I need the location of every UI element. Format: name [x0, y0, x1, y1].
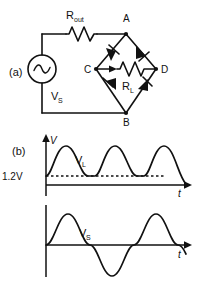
ac-source-icon	[28, 55, 56, 83]
t-axis-arrow-bottom-icon	[184, 241, 192, 249]
t-axis-label-bottom: t	[178, 249, 182, 260]
figure-canvas: (a) R out V S A B C D R L (b) V	[0, 0, 201, 287]
source-label-sub: S	[58, 97, 63, 104]
current-arrow-icon	[109, 66, 117, 73]
node-d-label: D	[161, 64, 168, 75]
trace-output-voltage	[46, 146, 186, 184]
trace-output-voltage-label-sub: L	[82, 161, 86, 168]
resistor-rout-label: R	[66, 9, 74, 21]
panel-b-label: (b)	[12, 145, 25, 157]
node-a-label: A	[123, 13, 130, 24]
v-axis-label: V	[50, 135, 58, 146]
panel-a-label: (a)	[9, 66, 22, 78]
resistor-rl-label-sub: L	[130, 87, 134, 94]
resistor-rl-label: R	[122, 80, 130, 92]
load-branch	[96, 62, 156, 76]
t-axis-label-top: t	[178, 188, 182, 199]
node-c-label: C	[84, 64, 91, 75]
v-axis-arrow-icon	[42, 134, 50, 142]
node-a-dot	[124, 32, 128, 36]
figure-root: (a) R out V S A B C D R L (b) V	[0, 0, 201, 287]
plot-source-voltage: t V S	[46, 205, 192, 277]
plot-output-voltage: V t 1.2V V L	[2, 134, 192, 199]
resistor-rout-icon	[66, 27, 97, 41]
panel-a-circuit: (a) R out V S A B C D R L	[9, 9, 168, 128]
node-b-dot	[124, 111, 128, 115]
bridge-diamond	[96, 34, 156, 113]
diode-upper-left-icon	[106, 45, 119, 61]
resistor-rout-label-sub: out	[74, 16, 84, 23]
threshold-label: 1.2V	[2, 171, 23, 182]
node-b-label: B	[123, 117, 130, 128]
panel-b-waveforms: (b) V t 1.2V V L	[2, 134, 192, 277]
trace-source-voltage-label-sub: S	[86, 234, 91, 241]
resistor-rl-icon	[117, 62, 156, 76]
